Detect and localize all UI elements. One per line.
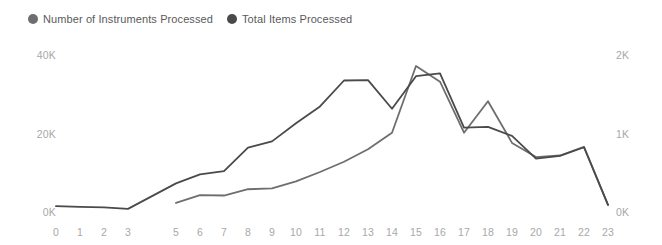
plot-area <box>0 0 662 245</box>
series-line <box>176 66 608 205</box>
dual-axis-line-chart: Number of Instruments Processed Total It… <box>0 0 662 245</box>
series-line <box>56 73 608 208</box>
